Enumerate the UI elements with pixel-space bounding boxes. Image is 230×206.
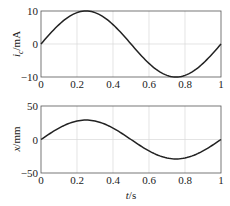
y-tick-labels: 100−10: [21, 5, 39, 83]
plot-displacement: 500−50 00.20.40.60.81 x/mm t/s: [10, 100, 224, 201]
y-axis-label: x/mm: [10, 126, 22, 153]
y-axis-label: ic/mA: [10, 31, 25, 57]
y-tick-label: 0: [33, 38, 39, 50]
x-tick-labels: 00.20.40.60.81: [38, 174, 224, 186]
x-tick-label: 0.2: [70, 174, 84, 186]
y-tick-label: −10: [21, 71, 39, 83]
x-tick-label: 1: [218, 174, 224, 186]
y-tick-label: 50: [27, 100, 39, 112]
x-tick-label: 0.6: [142, 174, 156, 186]
y-tick-label: −50: [21, 167, 39, 179]
plot-current: 100−10 00.20.40.60.81 ic/mA: [10, 5, 224, 90]
x-axis-label: t/s: [126, 189, 136, 201]
y-tick-label: 0: [33, 134, 39, 146]
x-tick-label: 0: [38, 174, 44, 186]
x-tick-label: 0: [38, 78, 44, 90]
x-tick-label: 1: [218, 78, 224, 90]
x-tick-label: 0.8: [178, 78, 192, 90]
x-tick-label: 0.2: [70, 78, 84, 90]
x-tick-label: 0.4: [106, 78, 120, 90]
x-tick-labels: 00.20.40.60.81: [38, 78, 224, 90]
x-tick-label: 0.8: [178, 174, 192, 186]
x-tick-label: 0.6: [142, 78, 156, 90]
x-tick-label: 0.4: [106, 174, 120, 186]
y-tick-labels: 500−50: [21, 100, 39, 179]
figure: 100−10 00.20.40.60.81 ic/mA 500−50 00.20…: [0, 0, 230, 206]
y-tick-label: 10: [27, 5, 39, 17]
